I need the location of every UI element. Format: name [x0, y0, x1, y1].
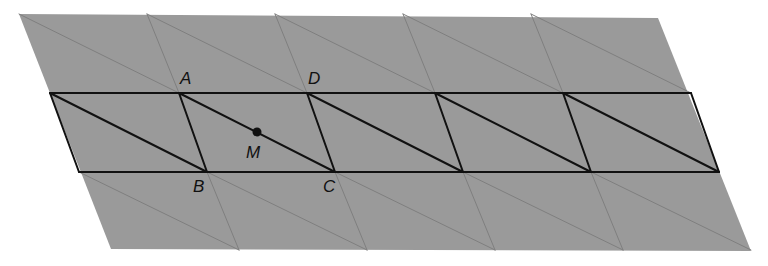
parallelogram-tessellation-diagram: ADBCM: [0, 0, 768, 266]
point-m-marker: [253, 128, 262, 137]
point-label-a: A: [179, 69, 191, 88]
point-label-c: C: [323, 177, 336, 196]
point-label-b: B: [193, 177, 204, 196]
point-label-m: M: [246, 143, 261, 162]
point-label-d: D: [308, 69, 320, 88]
